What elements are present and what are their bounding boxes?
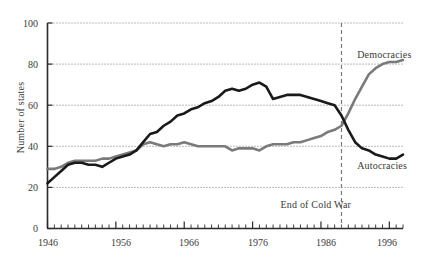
chart-plot-area xyxy=(0,0,421,261)
chart-figure: Number of states 100 80 60 40 20 0 1946 … xyxy=(0,0,421,261)
y-tick-label-40: 40 xyxy=(8,141,38,152)
x-tick-label-1976: 1976 xyxy=(238,237,278,248)
x-tick-label-1956: 1956 xyxy=(101,237,141,248)
autocracies-line xyxy=(48,83,404,184)
y-axis-title: Number of states xyxy=(15,63,26,173)
gridlines-group xyxy=(48,23,404,187)
y-tick-label-80: 80 xyxy=(8,59,38,70)
x-tick-label-1966: 1966 xyxy=(169,237,209,248)
end-of-cold-war-label: End of Cold War xyxy=(280,199,351,210)
x-tick-label-1996: 1996 xyxy=(367,237,407,248)
x-axis-ticks-group xyxy=(48,23,404,229)
series-label-autocracies: Autocracies xyxy=(357,160,407,171)
x-tick-label-1946: 1946 xyxy=(28,237,68,248)
y-tick-label-60: 60 xyxy=(8,100,38,111)
y-tick-label-0: 0 xyxy=(8,223,38,234)
x-tick-label-1986: 1986 xyxy=(306,237,346,248)
democracies-line xyxy=(48,60,404,169)
y-tick-label-20: 20 xyxy=(8,182,38,193)
y-tick-label-100: 100 xyxy=(8,18,38,29)
series-label-democracies: Democracies xyxy=(357,49,411,60)
